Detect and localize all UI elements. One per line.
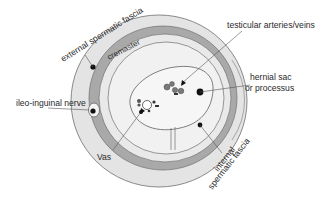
spermatic-cord-cross-section: external spermatic fascia cremaster test…: [0, 0, 324, 197]
label-hernial-sac-line1: hernial sac: [250, 72, 292, 82]
label-testicular-vessels: testicular arteries/veins: [227, 20, 315, 30]
label-hernial-sac-line2: or processus: [245, 83, 294, 93]
label-ilioinguinal-nerve: ileo-inguinal nerve: [16, 98, 86, 108]
label-vas: Vas: [97, 152, 111, 162]
ilioinguinal-nerve-marker: [90, 108, 95, 113]
